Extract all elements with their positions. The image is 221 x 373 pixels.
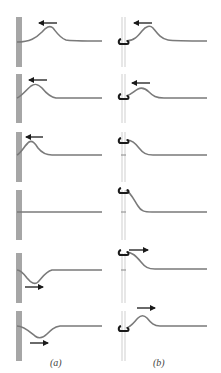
ring-icon <box>119 326 129 331</box>
wall-a-3 <box>16 132 22 182</box>
string-a-2 <box>17 84 102 98</box>
string-b-4 <box>126 190 207 212</box>
ring-icon <box>119 94 129 99</box>
string-b-6 <box>126 316 207 328</box>
ring-icon <box>119 39 129 44</box>
ring-icon <box>119 250 129 255</box>
string-b-2 <box>126 88 207 98</box>
column-a-label: (a) <box>50 357 62 368</box>
string-a-5 <box>17 270 102 283</box>
string-b-1 <box>126 26 207 41</box>
string-b-5 <box>126 252 207 269</box>
wall-a-4 <box>16 190 22 240</box>
string-a-1 <box>17 27 102 42</box>
wall-a-6 <box>16 311 22 361</box>
ring-icon <box>119 138 129 143</box>
wall-a-5 <box>16 253 22 303</box>
string-a-3 <box>17 141 102 155</box>
string-a-6 <box>17 326 102 338</box>
column-a <box>16 17 102 361</box>
string-b-3 <box>126 140 207 155</box>
column-b <box>119 17 207 361</box>
wall-a-2 <box>16 74 22 123</box>
column-b-label: (b) <box>153 357 165 368</box>
wave-reflection-diagram <box>0 0 221 373</box>
ring-icon <box>119 188 129 193</box>
